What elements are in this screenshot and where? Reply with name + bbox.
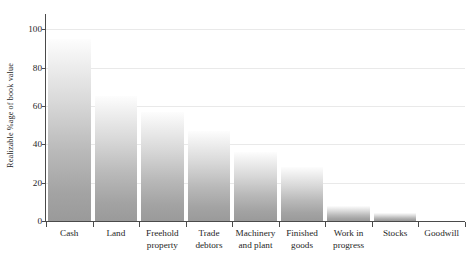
- x-axis-tick-mark: [93, 222, 94, 227]
- x-axis-tick-marks: [45, 222, 465, 227]
- x-axis-category-label: Stocks: [372, 228, 419, 240]
- x-axis-category-label-line: Freehold: [139, 228, 186, 240]
- x-axis-category-label-line: debtors: [186, 240, 233, 252]
- bar: [95, 96, 138, 221]
- y-axis-tick-mark: [42, 106, 45, 107]
- bar: [188, 131, 231, 221]
- bar: [48, 39, 91, 221]
- x-axis-category-label-line: Stocks: [372, 228, 419, 240]
- bar: [327, 206, 370, 221]
- x-axis-category-label: Machineryand plant: [232, 228, 279, 251]
- x-axis-category-label-line: and plant: [232, 240, 279, 252]
- x-axis-tick-mark: [46, 222, 47, 227]
- bar: [141, 112, 184, 221]
- x-axis-category-label: Tradedebtors: [186, 228, 233, 251]
- x-axis-category-label: Cash: [46, 228, 93, 240]
- y-axis-tick-mark: [42, 144, 45, 145]
- y-axis-tick-mark: [42, 29, 45, 30]
- x-axis-tick-mark: [465, 222, 466, 227]
- y-axis-tick-mark: [42, 68, 45, 69]
- x-axis-category-label-line: property: [139, 240, 186, 252]
- y-axis-tick-label: 100: [28, 24, 42, 34]
- bar: [374, 213, 417, 221]
- x-axis-tick-mark: [186, 222, 187, 227]
- x-axis-category-label-line: Trade: [186, 228, 233, 240]
- bar: [234, 152, 277, 221]
- x-axis-category-label-line: Work in: [325, 228, 372, 240]
- x-axis-category-label-line: Cash: [46, 228, 93, 240]
- y-axis-tick-mark: [42, 183, 45, 184]
- y-axis-tick-label: 20: [33, 178, 42, 188]
- y-axis-tick-labels: 020406080100: [14, 0, 42, 230]
- y-axis-tick-label: 80: [33, 63, 42, 73]
- x-axis-category-label-line: Finished: [279, 228, 326, 240]
- x-axis-tick-mark: [372, 222, 373, 227]
- y-axis-tick-label: 60: [33, 101, 42, 111]
- bar-series: [46, 14, 465, 222]
- x-axis-category-label: Goodwill: [418, 228, 465, 240]
- x-axis-category-label: Work inprogress: [325, 228, 372, 251]
- bar-chart: Realizable %age of book value 0204060801…: [0, 0, 472, 269]
- x-axis-tick-mark: [139, 222, 140, 227]
- y-axis-tick-label: 40: [33, 139, 42, 149]
- x-axis-category-label-line: goods: [279, 240, 326, 252]
- x-axis-category-label-line: Goodwill: [418, 228, 465, 240]
- x-axis-category-label: Finishedgoods: [279, 228, 326, 251]
- x-axis-category-label-line: Machinery: [232, 228, 279, 240]
- x-axis-category-label-line: progress: [325, 240, 372, 252]
- x-axis-category-labels: CashLandFreeholdpropertyTradedebtorsMach…: [45, 228, 465, 268]
- x-axis-tick-mark: [418, 222, 419, 227]
- x-axis-category-label: Land: [93, 228, 140, 240]
- bar: [281, 167, 324, 221]
- x-axis-tick-mark: [279, 222, 280, 227]
- x-axis-tick-mark: [232, 222, 233, 227]
- x-axis-tick-mark: [325, 222, 326, 227]
- plot-area: [45, 14, 465, 222]
- x-axis-category-label: Freeholdproperty: [139, 228, 186, 251]
- x-axis-category-label-line: Land: [93, 228, 140, 240]
